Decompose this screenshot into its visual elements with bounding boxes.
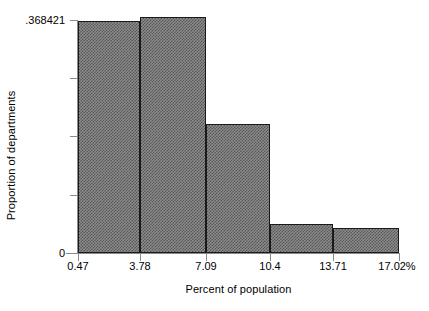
y-tick-mark-3 — [70, 136, 77, 137]
x-axis-line — [66, 253, 400, 254]
histogram-bar — [78, 21, 140, 253]
histogram-figure: Proportion of departments .368421 0 0.47… — [0, 0, 429, 311]
x-tick-label-6: 17.02% — [378, 261, 415, 272]
y-tick-label-max: .368421 — [25, 15, 65, 26]
x-tick-label-4: 10.4 — [259, 261, 280, 272]
x-tick-label-1: 0.47 — [67, 261, 88, 272]
histogram-bar — [270, 224, 333, 253]
x-tick-label-5: 13.71 — [319, 261, 347, 272]
histogram-bar — [206, 124, 270, 253]
x-axis-title: Percent of population — [78, 283, 399, 295]
x-tick-label-2: 3.78 — [129, 261, 150, 272]
y-tick-label-min: 0 — [59, 248, 65, 259]
x-tick-label-3: 7.09 — [195, 261, 216, 272]
y-tick-mark-5 — [70, 20, 77, 21]
plot-area — [78, 20, 399, 253]
histogram-bar — [140, 17, 206, 253]
y-tick-mark-4 — [70, 78, 77, 79]
y-axis-title: Proportion of departments — [0, 0, 22, 311]
y-tick-mark-2 — [70, 195, 77, 196]
y-axis-title-text: Proportion of departments — [5, 91, 17, 221]
histogram-bar — [333, 228, 399, 253]
